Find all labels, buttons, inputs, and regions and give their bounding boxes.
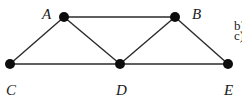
node-c: [5, 59, 15, 69]
item-c-marker: c): [234, 28, 242, 43]
node-d: [115, 59, 125, 69]
edge-a-d: [64, 17, 120, 64]
edge-a-c: [10, 17, 64, 64]
label-e: E: [223, 82, 233, 98]
label-a: A: [41, 6, 52, 22]
edge-b-e: [175, 17, 228, 64]
node-b: [170, 12, 180, 22]
edges: [10, 17, 228, 64]
label-d: D: [115, 82, 127, 98]
label-c: C: [6, 82, 17, 98]
label-b: B: [192, 6, 201, 22]
node-e: [223, 59, 233, 69]
node-a: [59, 12, 69, 22]
edge-b-d: [120, 17, 175, 64]
node-labels: A B C D E: [6, 6, 233, 98]
graph-diagram: A B C D E b) c): [0, 0, 242, 104]
